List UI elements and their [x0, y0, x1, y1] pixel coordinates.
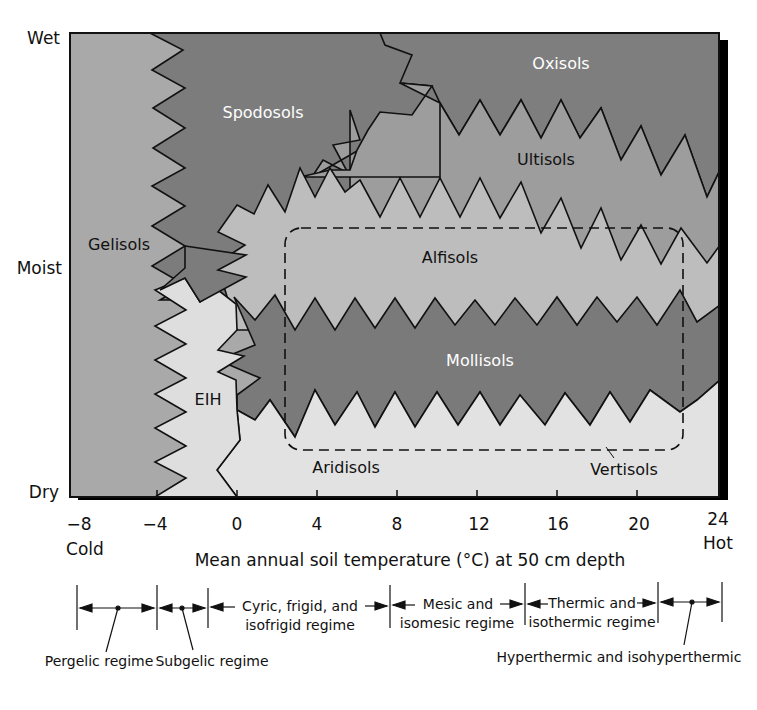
label-vertisols: Vertisols — [590, 460, 658, 479]
soil-regime-diagram: Spodosols Oxisols Ultisols Gelisols Alfi… — [0, 0, 757, 710]
x-tick-label: 16 — [547, 514, 569, 534]
regime-pergelic-label: Pergelic regime — [45, 653, 154, 669]
x-tick-label: −4 — [142, 514, 167, 534]
regime-hyperthermic-label: Hyperthermic and isohyperthermic — [497, 649, 742, 665]
y-label-wet: Wet — [27, 28, 60, 48]
label-oxisols: Oxisols — [532, 54, 589, 73]
x-tick-label: 24 — [707, 509, 729, 529]
x-tick-label: 4 — [312, 514, 323, 534]
x-tick-label: 0 — [232, 514, 243, 534]
y-label-moist: Moist — [17, 258, 63, 278]
x-cold-label: Cold — [66, 539, 104, 559]
regime-thermic-label-1: Thermic and — [547, 595, 636, 611]
label-aridisols: Aridisols — [312, 458, 379, 477]
y-label-dry: Dry — [29, 482, 59, 502]
label-mollisols: Mollisols — [446, 351, 514, 370]
label-ultisols: Ultisols — [517, 150, 575, 169]
regime-mesic-label-2: isomesic regime — [400, 615, 514, 631]
label-alfisols: Alfisols — [422, 248, 478, 267]
x-hot-label: Hot — [703, 533, 733, 553]
regime-mesic-label-1: Mesic and — [423, 596, 493, 612]
x-tick-label: −8 — [66, 514, 91, 534]
label-spodosols: Spodosols — [223, 103, 304, 122]
x-tick-label: 20 — [628, 514, 650, 534]
regime-thermic-label-2: isothermic regime — [529, 614, 656, 630]
x-tick-label: 8 — [392, 514, 403, 534]
regime-subgelic-label: Subgelic regime — [155, 653, 268, 669]
regime-cryic-label-1: Cyric, frigid, and — [242, 598, 358, 614]
x-axis-title: Mean annual soil temperature (°C) at 50 … — [195, 550, 626, 570]
x-tick-label: 12 — [468, 514, 490, 534]
label-gelisols: Gelisols — [88, 235, 150, 254]
label-eih: EIH — [195, 390, 222, 409]
regime-cryic-label-2: isofrigid regime — [245, 617, 355, 633]
